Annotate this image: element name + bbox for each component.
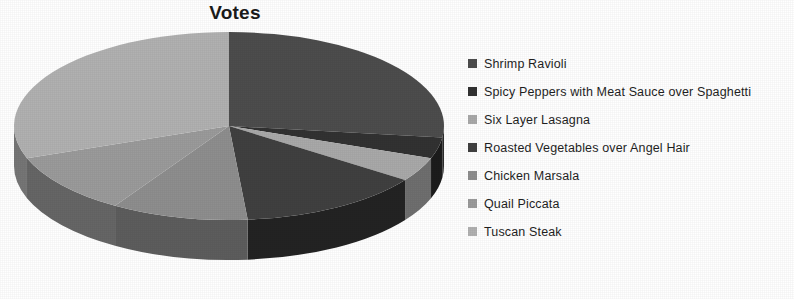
pie-slice[interactable] (229, 32, 444, 137)
legend-swatch-icon (468, 227, 477, 236)
legend-swatch-icon (468, 199, 477, 208)
legend-item-label: Quail Piccata (484, 190, 560, 218)
legend-item[interactable]: Six Layer Lasagna (468, 106, 794, 134)
legend-item[interactable]: Spicy Peppers with Meat Sauce over Spagh… (468, 78, 794, 106)
legend-item-label: Six Layer Lasagna (484, 106, 590, 134)
pie-chart-graphic (0, 0, 470, 299)
legend-swatch-icon (468, 143, 477, 152)
legend-item-label: Chicken Marsala (484, 162, 579, 190)
legend-item[interactable]: Tuscan Steak (468, 218, 794, 246)
legend-item-label: Shrimp Ravioli (484, 50, 567, 78)
pie-chart-figure: Votes Shrimp RavioliSpicy Peppers with M… (0, 0, 794, 299)
chart-legend: Shrimp RavioliSpicy Peppers with Meat Sa… (468, 50, 794, 246)
legend-item[interactable]: Chicken Marsala (468, 162, 794, 190)
legend-swatch-icon (468, 59, 477, 68)
legend-item[interactable]: Roasted Vegetables over Angel Hair (468, 134, 794, 162)
legend-swatch-icon (468, 171, 477, 180)
legend-item-label: Spicy Peppers with Meat Sauce over Spagh… (484, 78, 751, 106)
legend-item[interactable]: Shrimp Ravioli (468, 50, 794, 78)
legend-swatch-icon (468, 87, 477, 96)
legend-item[interactable]: Quail Piccata (468, 190, 794, 218)
legend-item-label: Roasted Vegetables over Angel Hair (484, 134, 690, 162)
legend-swatch-icon (468, 115, 477, 124)
legend-item-label: Tuscan Steak (484, 218, 562, 246)
pie-top-surface (14, 32, 444, 220)
